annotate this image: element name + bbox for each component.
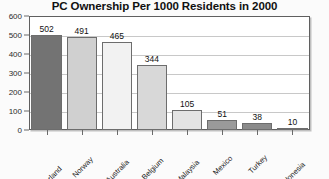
- bar[interactable]: [242, 123, 272, 130]
- bar-value-label: 51: [205, 109, 240, 119]
- y-tick-label: 600: [9, 12, 22, 21]
- x-tick-label: Indonesia: [278, 160, 307, 179]
- y-tick-label: 300: [9, 69, 22, 78]
- x-tick-mark: [47, 130, 48, 135]
- bar-group: 38: [240, 16, 275, 130]
- y-tick-label: 0: [18, 126, 22, 135]
- bar[interactable]: [31, 35, 61, 130]
- y-tick-label: 500: [9, 31, 22, 40]
- bar-value-label: 491: [64, 26, 99, 36]
- x-tick-label: Belgium: [140, 156, 166, 179]
- x-tick-mark: [292, 130, 293, 135]
- bar-group: 344: [134, 16, 169, 130]
- bar-group: 10: [275, 16, 310, 130]
- bar-group: 491: [64, 16, 99, 130]
- bar-value-label: 10: [275, 117, 310, 127]
- chart-container: PC Ownership Per 1000 Residents in 2000 …: [0, 0, 329, 179]
- y-tick-label: 400: [9, 50, 22, 59]
- x-tick-label: Norway: [70, 155, 94, 179]
- bars-layer: 502491465344105513810: [29, 16, 310, 130]
- bar-value-label: 38: [240, 112, 275, 122]
- bar[interactable]: [207, 120, 237, 130]
- bar[interactable]: [102, 42, 132, 130]
- x-tick-mark: [152, 130, 153, 135]
- y-axis: 0100200300400500600: [0, 16, 29, 130]
- chart-title: PC Ownership Per 1000 Residents in 2000: [0, 0, 329, 13]
- x-tick-label: Australia: [104, 158, 131, 179]
- bar[interactable]: [137, 65, 167, 130]
- x-tick-mark: [187, 130, 188, 135]
- y-tick-label: 200: [9, 88, 22, 97]
- x-tick-label: Malaysia: [174, 158, 201, 179]
- bar-value-label: 502: [29, 24, 64, 34]
- x-tick-label: Mexico: [211, 154, 234, 177]
- x-tick-mark: [222, 130, 223, 135]
- bar-group: 502: [29, 16, 64, 130]
- bar[interactable]: [172, 110, 202, 130]
- bar[interactable]: [67, 37, 97, 130]
- y-tick-label: 100: [9, 107, 22, 116]
- bar-group: 465: [99, 16, 134, 130]
- x-tick-mark: [82, 130, 83, 135]
- bar-value-label: 105: [170, 99, 205, 109]
- x-axis: SwitzerlandNorwayAustraliaBelgiumMalaysi…: [29, 130, 310, 179]
- x-tick-label: Turkey: [247, 153, 269, 175]
- bar-group: 51: [205, 16, 240, 130]
- bar-value-label: 465: [99, 31, 134, 41]
- bar-group: 105: [170, 16, 205, 130]
- bar-value-label: 344: [134, 54, 169, 64]
- x-tick-label: Switzerland: [29, 164, 63, 179]
- x-tick-mark: [257, 130, 258, 135]
- x-tick-mark: [117, 130, 118, 135]
